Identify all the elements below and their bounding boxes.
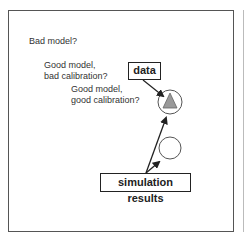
data-arrow: [143, 80, 163, 96]
simulation-circle: [159, 137, 181, 159]
diagram-graphics: [0, 0, 245, 233]
